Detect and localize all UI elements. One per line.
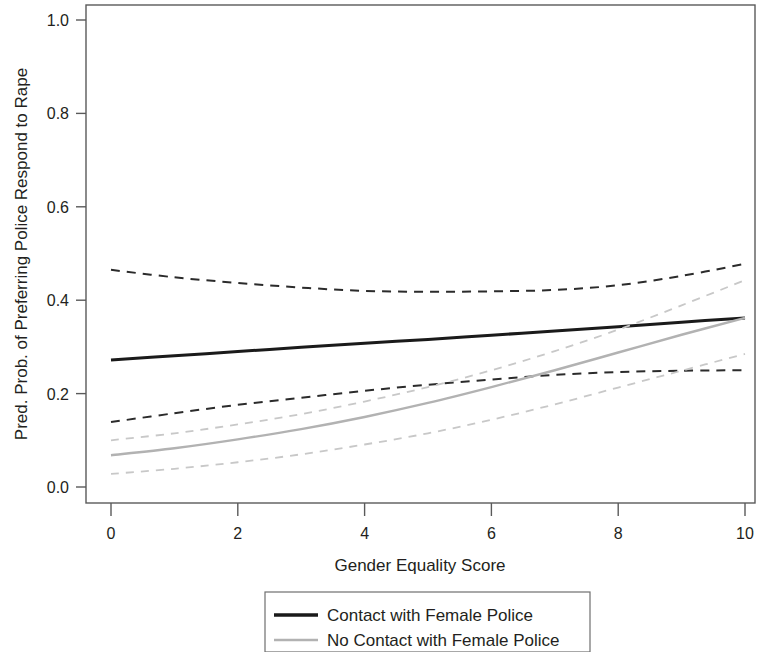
legend-label-0: Contact with Female Police xyxy=(327,606,533,625)
x-tick-label: 6 xyxy=(487,525,496,542)
x-tick-label: 0 xyxy=(107,525,116,542)
y-tick-label: 0.4 xyxy=(47,292,69,309)
series-line-4 xyxy=(111,280,745,440)
prediction-probability-line-chart: 0.00.20.40.60.81.0 0246810 Pred. Prob. o… xyxy=(0,0,765,652)
y-tick-label: 0.6 xyxy=(47,199,69,216)
chart-figure: 0.00.20.40.60.81.0 0246810 Pred. Prob. o… xyxy=(0,0,765,652)
series-line-5 xyxy=(111,354,745,474)
series-line-2 xyxy=(111,370,745,422)
x-tick-label: 4 xyxy=(360,525,369,542)
series-line-0 xyxy=(111,318,745,360)
x-axis-ticks: 0246810 xyxy=(107,503,754,542)
y-axis-ticks: 0.00.20.40.60.81.0 xyxy=(47,12,86,496)
chart-legend: Contact with Female PoliceNo Contact wit… xyxy=(265,592,590,652)
x-tick-label: 8 xyxy=(614,525,623,542)
x-axis-title: Gender Equality Score xyxy=(334,556,505,575)
y-tick-label: 0.8 xyxy=(47,105,69,122)
plot-frame xyxy=(86,5,755,503)
legend-label-1: No Contact with Female Police xyxy=(327,631,559,650)
x-tick-label: 2 xyxy=(233,525,242,542)
y-tick-label: 0.2 xyxy=(47,386,69,403)
y-axis-title: Pred. Prob. of Preferring Police Respond… xyxy=(12,68,31,440)
y-tick-label: 1.0 xyxy=(47,12,69,29)
x-tick-label: 10 xyxy=(736,525,754,542)
y-tick-label: 0.0 xyxy=(47,479,69,496)
chart-series-group xyxy=(111,264,745,474)
series-line-1 xyxy=(111,264,745,292)
